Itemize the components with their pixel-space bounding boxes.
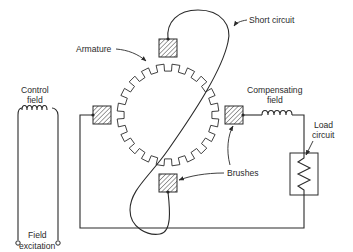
armature-pointer-arrow bbox=[116, 49, 146, 61]
field-excitation-label-line1: Field bbox=[28, 230, 47, 240]
control-field-label-line1: Control bbox=[21, 85, 49, 95]
brush-top bbox=[159, 39, 177, 57]
brush-right bbox=[225, 106, 243, 124]
brushes-pointer-arrow-right bbox=[228, 126, 233, 165]
brushes-label: Brushes bbox=[227, 168, 259, 178]
load-circuit-label-line2: circuit bbox=[312, 130, 335, 140]
control-field-label-line2: field bbox=[27, 95, 43, 105]
compensating-field-label-line1: Compensating bbox=[247, 85, 303, 95]
brush-bottom bbox=[159, 174, 177, 192]
armature-label: Armature bbox=[76, 44, 112, 54]
amplidyne-diagram: Armature Short circuit Control field Com… bbox=[0, 0, 353, 252]
field-excitation-label-line2: excitation bbox=[19, 241, 56, 251]
load-circuit-label-line1: Load bbox=[314, 120, 333, 130]
brush-left bbox=[93, 106, 111, 124]
brushes-pointer-arrow-bottom bbox=[179, 173, 224, 180]
load-circuit-wire bbox=[80, 111, 304, 229]
short-circuit-wire bbox=[130, 10, 229, 234]
compensating-field-label-line2: field bbox=[267, 95, 283, 105]
short-circuit-label: Short circuit bbox=[249, 15, 295, 25]
load-resistor bbox=[290, 153, 318, 195]
short-circuit-pointer-arrow bbox=[234, 20, 247, 26]
control-field-coil bbox=[16, 106, 60, 246]
